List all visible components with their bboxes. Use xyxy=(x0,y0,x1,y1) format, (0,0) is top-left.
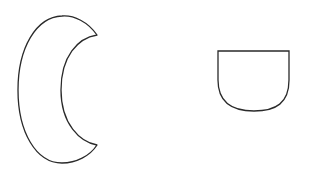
crescent-shape xyxy=(18,16,97,163)
diagram-canvas xyxy=(0,0,309,172)
u-shape xyxy=(218,51,289,111)
